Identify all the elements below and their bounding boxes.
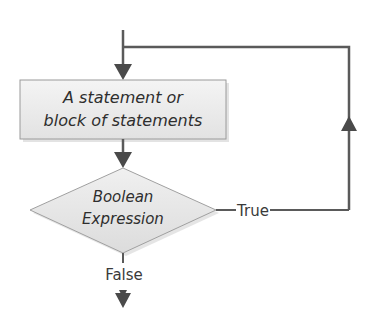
statement-label-line1: A statement or [20, 87, 226, 109]
statement-label-line2: block of statements [20, 110, 226, 132]
condition-label-line1: Boolean [63, 186, 183, 208]
arrow-down-icon [114, 152, 132, 168]
arrow-down-icon [114, 64, 132, 80]
arrow-up-icon [341, 116, 357, 131]
condition-label-line2: Expression [63, 208, 183, 230]
true-label: True [236, 202, 270, 220]
flowchart-canvas [0, 0, 372, 323]
false-label: False [101, 266, 147, 284]
